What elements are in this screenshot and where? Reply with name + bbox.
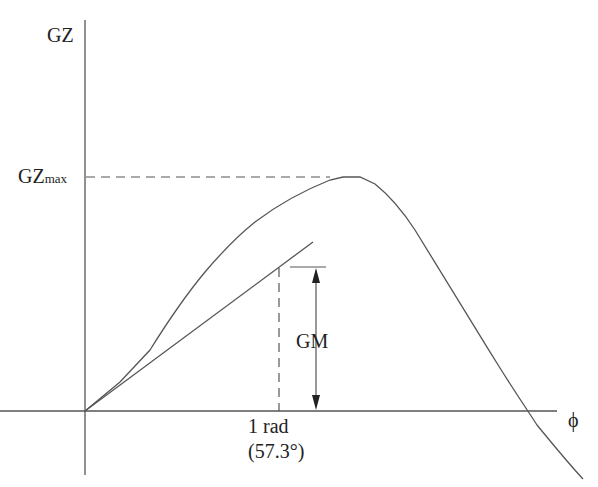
gz-curve	[85, 177, 583, 479]
gz-diagram: GZ GZmax GM 1 rad (57.3°) ϕ	[0, 0, 598, 487]
gzmax-label-sub: max	[45, 171, 68, 186]
gzmax-label-main: GZ	[18, 165, 45, 187]
gzmax-label: GZmax	[18, 165, 68, 187]
gm-label: GM	[296, 330, 328, 352]
gm-tangent-line	[85, 242, 313, 411]
gm-arrow-down-icon	[312, 395, 320, 410]
x-axis-label: ϕ	[568, 409, 579, 432]
y-axis-label: GZ	[47, 24, 74, 46]
gm-arrow-up-icon	[312, 268, 320, 283]
degrees-label: (57.3°)	[248, 440, 304, 463]
one-rad-label: 1 rad	[248, 415, 289, 437]
